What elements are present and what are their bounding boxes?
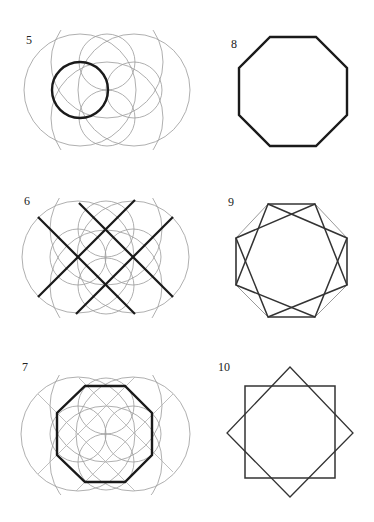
highlighted-diagonal-line (79, 203, 173, 297)
octagon-edge (315, 285, 347, 317)
octagon-edge (236, 204, 268, 238)
panel-10-star-squares (227, 367, 353, 497)
octagon-edge (315, 204, 347, 238)
step-label-9: 9 (228, 196, 234, 208)
step-label-6: 6 (24, 195, 30, 207)
construction-circle (78, 34, 190, 146)
panel-6-diagonals (22, 173, 189, 342)
construction-figures (0, 0, 374, 522)
panel-5-circles (24, 6, 190, 174)
octagon-shape (239, 37, 347, 146)
step-label-8: 8 (231, 38, 237, 50)
step-label-10: 10 (218, 361, 230, 373)
geometric-construction-diagram: 5 8 6 9 7 10 (0, 0, 374, 522)
step-label-5: 5 (26, 34, 32, 46)
panel-8-octagon (239, 37, 347, 146)
panel-9-octagon-with-squares (236, 204, 347, 317)
panel-7-construction-octagon (21, 350, 190, 518)
step-label-7: 7 (22, 361, 28, 373)
octagon-edge (236, 285, 268, 317)
construction-circle (24, 34, 136, 146)
